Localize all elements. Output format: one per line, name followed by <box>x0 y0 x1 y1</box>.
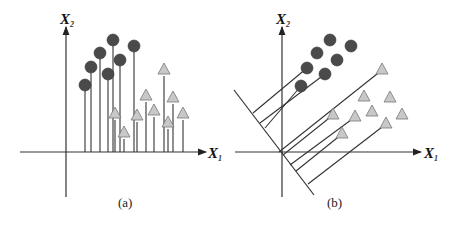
data-point-triangle <box>109 107 121 118</box>
data-point-triangle <box>177 107 189 118</box>
class-circles <box>79 34 140 91</box>
projection-direction-line <box>234 90 314 195</box>
data-point-triangle <box>380 117 392 128</box>
data-point-triangle <box>148 104 160 115</box>
data-point-circle <box>114 54 126 66</box>
data-point-triangle <box>396 108 408 119</box>
data-point-circle <box>324 34 336 46</box>
data-point-triangle <box>327 108 339 119</box>
data-point-circle <box>295 80 307 92</box>
data-point-circle <box>128 40 140 52</box>
data-point-circle <box>107 34 119 46</box>
data-point-circle <box>79 79 91 91</box>
data-point-triangle <box>140 89 152 100</box>
x2-axis-label: X2 <box>275 11 290 29</box>
panel-a-caption: (a) <box>118 195 132 210</box>
data-point-circle <box>94 47 106 59</box>
x1-axis-label: X1 <box>207 145 222 163</box>
class-circles <box>295 34 357 92</box>
data-point-triangle <box>366 105 378 116</box>
data-point-circle <box>85 61 97 73</box>
data-point-triangle <box>158 63 170 74</box>
data-point-triangle <box>358 90 370 101</box>
data-point-circle <box>331 54 343 66</box>
class-triangles <box>109 63 189 137</box>
data-point-circle <box>319 68 331 80</box>
figure-canvas: X1 X2 (a) <box>0 0 453 225</box>
data-point-triangle <box>336 127 348 138</box>
data-point-triangle <box>376 63 388 74</box>
panel-b: X1 X2 (b) <box>234 11 438 210</box>
data-point-triangle <box>384 91 396 102</box>
data-point-triangle <box>349 110 361 121</box>
projection-lines <box>253 68 386 184</box>
x2-axis-label: X2 <box>59 11 74 29</box>
x1-axis-label: X1 <box>423 145 438 163</box>
panel-b-caption: (b) <box>327 195 342 210</box>
panel-a: X1 X2 (a) <box>20 11 222 210</box>
data-point-triangle <box>167 91 179 102</box>
data-point-circle <box>301 62 313 74</box>
class-triangles <box>327 63 408 138</box>
data-point-triangle <box>131 109 143 120</box>
data-point-circle <box>345 40 357 52</box>
data-point-circle <box>102 68 114 80</box>
data-point-circle <box>311 47 323 59</box>
